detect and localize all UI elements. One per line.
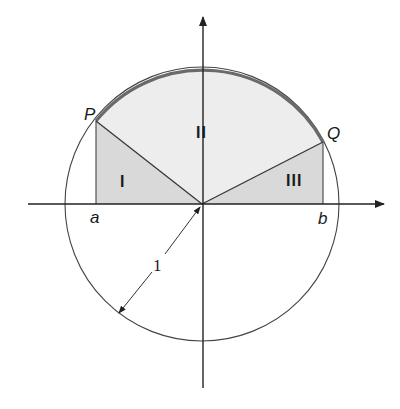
region-i-label: I [120,173,125,190]
radius-line-lower [119,272,152,313]
point-p-label: P [84,105,96,124]
region-ii-label: II [196,124,207,141]
unit-circle-diagram: P Q a b I II III 1 [0,0,400,409]
point-a-label: a [90,208,99,227]
point-b-label: b [318,209,327,228]
radius-label: 1 [153,256,162,275]
point-q-label: Q [327,124,340,143]
radius-line-upper [165,207,200,254]
region-iii-label: III [286,172,302,189]
